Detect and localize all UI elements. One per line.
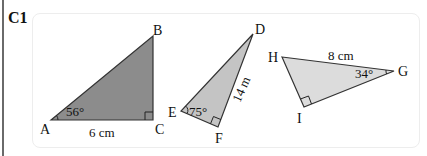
vertex-i-label: I [297, 111, 302, 126]
triangle-def: 75° 14 m D E F [168, 22, 265, 146]
triangles-diagram: 56° 6 cm A B C 75° 14 m D E F 34° 8 cm H… [0, 0, 427, 156]
angle-a-label: 56° [66, 104, 84, 119]
vertex-e-label: E [168, 105, 177, 120]
triangle-abc: 56° 6 cm A B C [40, 23, 164, 140]
side-ac-label: 6 cm [89, 125, 115, 140]
vertex-a-label: A [40, 122, 51, 137]
angle-e-label: 75° [189, 104, 207, 119]
angle-g-label: 34° [355, 66, 373, 81]
vertex-c-label: C [155, 122, 164, 137]
vertex-d-label: D [255, 22, 265, 37]
vertex-g-label: G [398, 64, 408, 79]
vertex-h-label: H [268, 50, 278, 65]
vertex-f-label: F [215, 131, 223, 146]
vertex-b-label: B [153, 23, 162, 38]
side-hg-label: 8 cm [328, 48, 354, 63]
triangle-ghi: 34° 8 cm H G I [268, 48, 408, 126]
